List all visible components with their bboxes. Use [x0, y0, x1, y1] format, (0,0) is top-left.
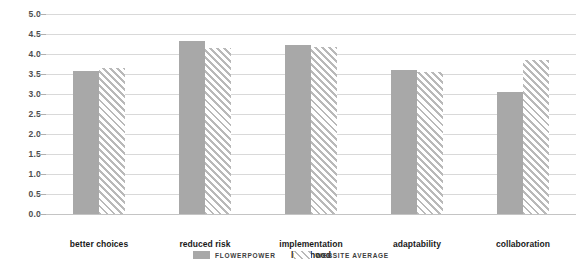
bar-groups	[46, 0, 576, 232]
bar-pair	[470, 14, 576, 214]
y-axis-tick-mark	[39, 14, 46, 15]
y-axis-tick-mark	[39, 194, 46, 195]
bar-group	[152, 0, 258, 232]
legend-item[interactable]: FLOWERPOWER	[193, 251, 275, 259]
bar-group	[258, 0, 364, 232]
bar-website-average[interactable]	[205, 48, 231, 214]
bar-website-average[interactable]	[417, 72, 443, 214]
y-axis-tick-mark	[39, 214, 46, 215]
bar-pair	[364, 14, 470, 214]
grouped-bar-chart: 0.00.51.01.52.02.53.03.54.04.55.0 better…	[0, 0, 582, 269]
bar-pair	[46, 14, 152, 214]
bar-flowerpower[interactable]	[497, 92, 523, 214]
y-axis-tick-mark	[39, 34, 46, 35]
y-axis-tick-mark	[39, 134, 46, 135]
y-axis-tick-mark	[39, 114, 46, 115]
bar-website-average[interactable]	[99, 68, 125, 214]
bar-website-average[interactable]	[311, 47, 337, 214]
bar-group	[46, 0, 152, 232]
bar-flowerpower[interactable]	[179, 41, 205, 214]
y-axis-tick-mark	[39, 174, 46, 175]
solid-swatch-icon	[193, 251, 210, 259]
y-axis-tick-mark	[39, 54, 46, 55]
legend-label: FLOWERPOWER	[215, 252, 275, 259]
legend-item[interactable]: WEBSITE AVERAGE	[294, 251, 389, 259]
bar-pair	[152, 14, 258, 214]
y-axis-tick-mark	[39, 94, 46, 95]
bar-flowerpower[interactable]	[391, 70, 417, 214]
bar-flowerpower[interactable]	[285, 45, 311, 214]
hatch-swatch-icon	[294, 251, 311, 259]
legend-label: WEBSITE AVERAGE	[316, 252, 389, 259]
bar-flowerpower[interactable]	[73, 71, 99, 214]
bar-website-average[interactable]	[523, 60, 549, 214]
bar-pair	[258, 14, 364, 214]
chart-legend: FLOWERPOWERWEBSITE AVERAGE	[0, 246, 582, 264]
y-axis-tick-mark	[39, 154, 46, 155]
y-axis-tick-mark	[39, 74, 46, 75]
bar-group	[364, 0, 470, 232]
bar-group	[470, 0, 576, 232]
plot-area: 0.00.51.01.52.02.53.03.54.04.55.0	[0, 0, 582, 232]
